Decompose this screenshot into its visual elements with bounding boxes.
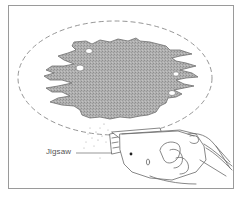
jigsaw-illustration: Jigsaw xyxy=(0,0,242,201)
jigsaw-label: Jigsaw xyxy=(46,147,71,157)
switch-button xyxy=(130,153,133,156)
